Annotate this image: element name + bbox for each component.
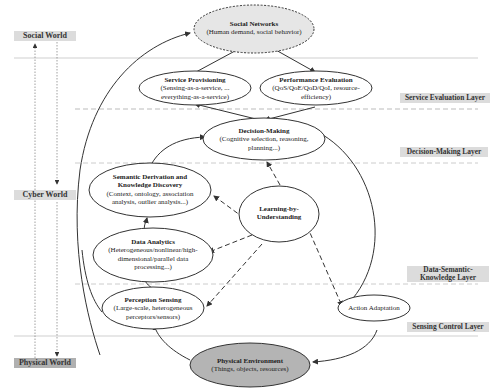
node-subtitle: processing...) <box>96 263 210 271</box>
node-subtitle: (Things, objects, resources) <box>192 365 308 373</box>
node-data-analytics: Data Analytics (Heterogeneous/nonlinear/… <box>96 238 210 272</box>
node-title: Semantic Derivation and <box>92 173 208 181</box>
node-title: Data Analytics <box>96 238 210 246</box>
social-world-label: Social World <box>14 31 76 41</box>
node-title: Knowledge Discovery <box>92 181 208 189</box>
node-title: Understanding <box>242 213 316 221</box>
data-semantic-knowledge-layer-label: Data-Semantic- Knowledge Layer <box>407 266 489 282</box>
node-subtitle: perceptors/sensors) <box>104 313 202 321</box>
node-subtitle: (QoS/QoE/QoD/QoI, resource- <box>262 84 370 92</box>
node-physical-environment: Physical Environment (Things, objects, r… <box>192 357 308 374</box>
node-title: Learning-by- <box>242 205 316 213</box>
decision-making-layer-label: Decision-Making Layer <box>400 147 488 157</box>
node-service-provisioning: Service Provisioning (Sensing-as-a-servi… <box>142 76 248 101</box>
sensing-control-layer-label: Sensing Control Layer <box>407 322 489 332</box>
node-decision-making: Decision-Making (Cognitive selection, re… <box>206 127 322 152</box>
node-performance-evaluation: Performance Evaluation (QoS/QoE/QoD/QoI,… <box>262 76 370 101</box>
node-learning-by-understanding: Learning-by- Understanding <box>242 205 316 222</box>
cyber-world-label: Cyber World <box>14 190 76 200</box>
node-social-networks: Social Networks (Human demand, social be… <box>198 20 310 37</box>
service-evaluation-layer-label: Service Evaluation Layer <box>400 93 490 103</box>
node-subtitle: efficiency) <box>262 93 370 101</box>
layer-label-line2: Knowledge Layer <box>407 274 489 282</box>
world-arrows <box>35 42 57 358</box>
physical-world-label: Physical World <box>14 358 76 368</box>
node-subtitle: (Large-scale, heterogeneous <box>104 304 202 312</box>
node-subtitle: planning...) <box>206 144 322 152</box>
node-title: Performance Evaluation <box>262 76 370 84</box>
node-subtitle: (Context, ontology, association <box>92 190 208 198</box>
node-subtitle: analysis, outlier analysis...) <box>92 198 208 206</box>
node-subtitle: (Sensing-as-a-service, ... <box>142 84 248 92</box>
node-perception-sensing: Perception Sensing (Large-scale, heterog… <box>104 296 202 321</box>
node-semantic-derivation: Semantic Derivation and Knowledge Discov… <box>92 173 208 207</box>
node-title: Perception Sensing <box>104 296 202 304</box>
node-subtitle: (Human demand, social behavior) <box>198 28 310 36</box>
node-title: Physical Environment <box>192 357 308 365</box>
node-title: Action Adaptation <box>340 304 408 312</box>
node-subtitle: dimensional/parallel data <box>96 255 210 263</box>
node-title: Service Provisioning <box>142 76 248 84</box>
node-subtitle: (Cognitive selection, reasoning, <box>206 135 322 143</box>
node-subtitle: (Heterogeneous/nonlinear/high- <box>96 246 210 254</box>
node-title: Social Networks <box>198 20 310 28</box>
node-title: Decision-Making <box>206 127 322 135</box>
node-subtitle: everything-as-a-service) <box>142 93 248 101</box>
node-action-adaptation: Action Adaptation <box>340 304 408 312</box>
